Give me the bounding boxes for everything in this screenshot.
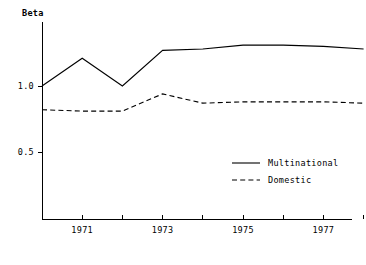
legend-label-domestic: Domestic xyxy=(268,175,311,185)
x-tick-label-6: 1977 xyxy=(313,225,335,235)
series-line-domestic xyxy=(42,94,364,111)
x-axis-group: 1971197319751977 xyxy=(42,215,364,235)
beta-line-chart: 0.51.0 1971197319751977 Beta Multination… xyxy=(0,0,366,265)
y-tick-label-1: 1.0 xyxy=(18,81,34,91)
x-tick-group: 1971197319751977 xyxy=(71,215,363,235)
legend-label-multinational: Multinational xyxy=(268,158,338,168)
series-line-multinational xyxy=(42,45,364,86)
x-tick-label-4: 1975 xyxy=(232,225,254,235)
series-group xyxy=(42,45,364,111)
y-axis-group: 0.51.0 xyxy=(18,22,43,219)
chart-canvas: 0.51.0 1971197319751977 Beta Multination… xyxy=(0,0,366,265)
y-tick-label-0: 0.5 xyxy=(18,147,34,157)
chart-legend: MultinationalDomestic xyxy=(232,158,338,185)
y-tick-group: 0.51.0 xyxy=(18,81,43,157)
y-axis-title: Beta xyxy=(22,8,44,18)
x-tick-label-0: 1971 xyxy=(71,225,93,235)
x-tick-label-2: 1973 xyxy=(152,225,174,235)
